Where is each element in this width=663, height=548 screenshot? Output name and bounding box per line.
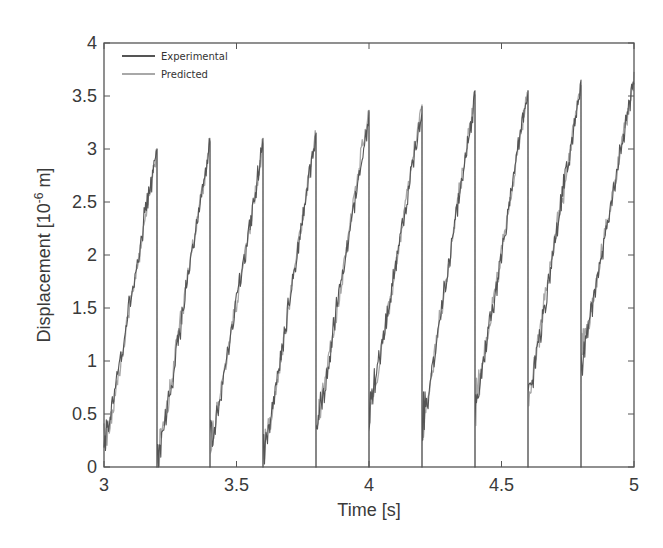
y-tick-label: 4 — [87, 33, 97, 53]
legend: Experimental Predicted — [122, 51, 228, 80]
y-tick-label: 1 — [87, 351, 97, 371]
y-tick-label: 3.5 — [72, 86, 97, 106]
x-tick-label: 4 — [364, 475, 374, 495]
y-axis-title: Displacement [10-6 m] — [32, 168, 54, 343]
x-tick-label: 3.5 — [224, 475, 249, 495]
y-tick-label: 1.5 — [72, 298, 97, 318]
y-tick-label: 0 — [87, 457, 97, 477]
legend-label-predicted: Predicted — [161, 69, 208, 80]
x-axis-title: Time [s] — [337, 500, 400, 520]
y-tick-label: 0.5 — [72, 404, 97, 424]
legend-label-experimental: Experimental — [161, 51, 228, 62]
y-tick-label: 3 — [87, 139, 97, 159]
x-tick-labels: 33.544.55 — [99, 475, 639, 495]
series-line-experimental — [104, 80, 634, 467]
y-tick-label: 2 — [87, 245, 97, 265]
displacement-chart: 33.544.55 00.511.522.533.54 Time [s] Dis… — [0, 0, 663, 548]
x-tick-label: 3 — [99, 475, 109, 495]
x-tick-label: 5 — [629, 475, 639, 495]
plot-area — [104, 72, 634, 467]
y-tick-labels: 00.511.522.533.54 — [72, 33, 97, 477]
x-tick-label: 4.5 — [489, 475, 514, 495]
y-tick-label: 2.5 — [72, 192, 97, 212]
